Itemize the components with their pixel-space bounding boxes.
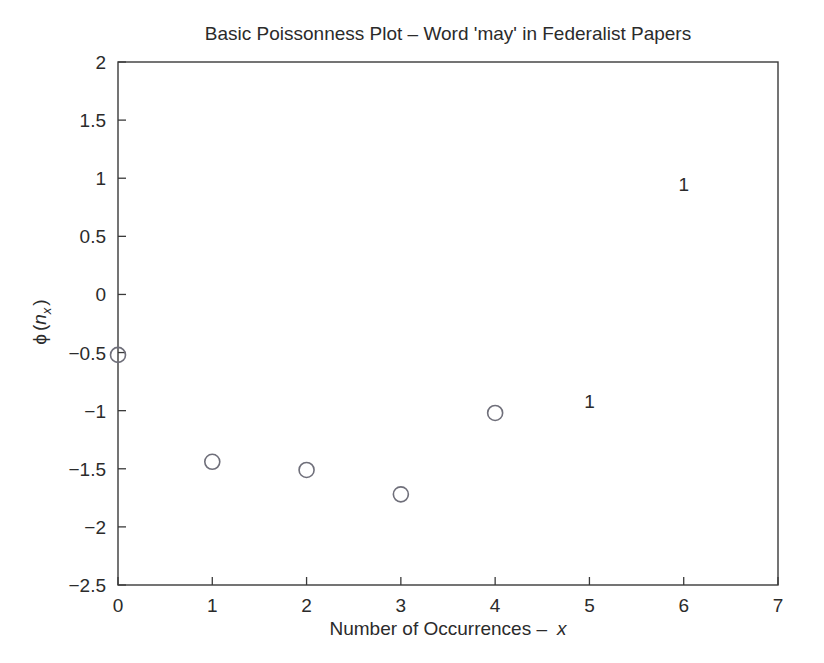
x-tick-label: 6 bbox=[678, 595, 689, 616]
y-tick-label: −1.5 bbox=[68, 459, 106, 480]
data-annotations: 11 bbox=[584, 174, 689, 412]
chart-title: Basic Poissonness Plot – Word 'may' in F… bbox=[205, 23, 691, 44]
y-tick-label: 1 bbox=[95, 168, 106, 189]
x-tick-label: 7 bbox=[773, 595, 784, 616]
x-tick-label: 5 bbox=[584, 595, 595, 616]
data-point-marker bbox=[205, 454, 220, 469]
x-tick-label: 2 bbox=[301, 595, 312, 616]
y-tick-label: 2 bbox=[95, 52, 106, 73]
poissonness-plot-figure: Basic Poissonness Plot – Word 'may' in F… bbox=[0, 0, 824, 663]
x-axis-label: Number of Occurrences –x bbox=[329, 618, 568, 639]
x-tick-label: 0 bbox=[113, 595, 124, 616]
x-tick-label: 4 bbox=[490, 595, 501, 616]
data-point-marker bbox=[393, 487, 408, 502]
data-point-marker bbox=[299, 462, 314, 477]
y-axis-label-paren-close: ) bbox=[29, 299, 50, 305]
x-tick-label: 1 bbox=[207, 595, 218, 616]
y-axis-label-subscript: x bbox=[39, 307, 54, 315]
x-axis-label-text: Number of Occurrences – bbox=[329, 618, 547, 639]
data-count-annotation: 1 bbox=[678, 174, 689, 195]
data-series-markers bbox=[111, 347, 503, 501]
y-axis-label: ϕ(nx) bbox=[29, 299, 54, 344]
y-tick-label: −2.5 bbox=[68, 575, 106, 596]
data-point-marker bbox=[488, 405, 503, 420]
plot-axes-frame bbox=[118, 62, 778, 585]
x-axis-ticks: 01234567 bbox=[113, 577, 784, 616]
y-tick-label: 0.5 bbox=[80, 226, 106, 247]
data-count-annotation: 1 bbox=[584, 391, 595, 412]
x-tick-label: 3 bbox=[396, 595, 407, 616]
y-axis-label-n: n bbox=[29, 314, 50, 325]
svg-text:ϕ(nx): ϕ(nx) bbox=[29, 299, 54, 344]
y-tick-label: 0 bbox=[95, 284, 106, 305]
y-tick-label: −0.5 bbox=[68, 343, 106, 364]
x-axis-label-variable: x bbox=[556, 618, 568, 639]
y-tick-label: −2 bbox=[84, 517, 106, 538]
y-axis-label-phi: ϕ bbox=[29, 334, 50, 345]
y-tick-label: 1.5 bbox=[80, 110, 106, 131]
y-tick-label: −1 bbox=[84, 401, 106, 422]
chart-canvas: Basic Poissonness Plot – Word 'may' in F… bbox=[0, 0, 824, 663]
